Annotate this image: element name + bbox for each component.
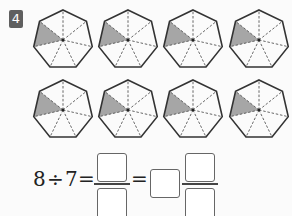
equation-divisor: 7 — [65, 167, 78, 191]
equation-equals-2: = — [131, 167, 148, 191]
fraction-bar-1 — [94, 183, 130, 185]
problem-number-badge: 4 — [9, 10, 23, 28]
heptagon-shape — [96, 78, 160, 142]
mixed-numerator-box[interactable] — [185, 153, 215, 182]
heptagon-shape — [31, 78, 95, 142]
heptagon-shape — [31, 8, 95, 72]
equation-dividend: 8 — [33, 167, 46, 191]
mixed-denominator-box[interactable] — [185, 188, 215, 216]
equation: 8 ÷ 7 = = — [33, 155, 283, 216]
heptagon-shape — [161, 8, 225, 72]
equation-equals-1: = — [78, 167, 95, 191]
heptagon-shape — [96, 8, 160, 72]
improper-numerator-box[interactable] — [97, 153, 127, 182]
heptagon-shape — [227, 78, 291, 142]
equation-operator: ÷ — [47, 167, 64, 191]
fraction-bar-2 — [182, 183, 218, 185]
heptagon-shape — [161, 78, 225, 142]
whole-number-box[interactable] — [150, 169, 180, 198]
improper-denominator-box[interactable] — [97, 188, 127, 216]
heptagon-shape — [227, 8, 291, 72]
